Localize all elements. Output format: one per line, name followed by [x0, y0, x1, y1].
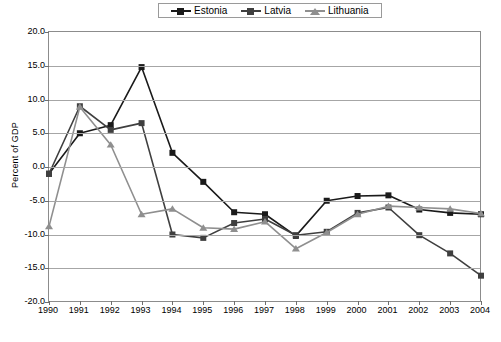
- series-line: [49, 106, 481, 275]
- square-marker-icon: [46, 171, 52, 177]
- square-marker-icon: [247, 8, 254, 15]
- y-tick-label: 5.0: [11, 128, 45, 137]
- square-marker-icon: [231, 209, 237, 215]
- y-tick-mark: [45, 167, 49, 168]
- square-marker-icon: [200, 235, 206, 241]
- gridline: [49, 201, 480, 202]
- x-tick-label: 1994: [154, 306, 188, 315]
- x-tick-label: 1993: [124, 306, 158, 315]
- series-line: [49, 107, 481, 249]
- y-tick-mark: [45, 32, 49, 33]
- square-marker-icon: [108, 127, 114, 133]
- legend-item-lithuania[interactable]: Lithuania: [305, 6, 369, 16]
- square-marker-icon: [177, 8, 184, 15]
- square-marker-icon: [231, 220, 237, 226]
- y-tick-label: 20.0: [11, 27, 45, 36]
- square-marker-icon: [447, 250, 453, 256]
- square-marker-icon: [200, 179, 206, 185]
- triangle-marker-icon: [168, 205, 176, 211]
- x-tick-label: 2000: [340, 306, 374, 315]
- triangle-marker-icon: [310, 8, 320, 15]
- y-tick-mark: [45, 66, 49, 67]
- y-tick-label: 15.0: [11, 61, 45, 70]
- gridline: [49, 268, 480, 269]
- legend-swatch-lithuania: [305, 6, 325, 16]
- chart-container: Estonia Latvia Lithuania Percent of GDP …: [0, 0, 501, 342]
- x-tick-label: 1990: [31, 306, 65, 315]
- y-tick-label: -10.0: [11, 230, 45, 239]
- square-marker-icon: [355, 193, 361, 199]
- y-tick-mark: [45, 268, 49, 269]
- legend-label-lithuania: Lithuania: [328, 6, 369, 16]
- x-tick-label: 2003: [432, 306, 466, 315]
- square-marker-icon: [139, 120, 145, 126]
- legend-item-latvia[interactable]: Latvia: [241, 6, 291, 16]
- triangle-marker-icon: [45, 223, 53, 229]
- x-tick-label: 1996: [216, 306, 250, 315]
- x-tick-label: 1998: [278, 306, 312, 315]
- y-tick-label: 10.0: [11, 95, 45, 104]
- gridline: [49, 133, 480, 134]
- y-tick-label: 0.0: [11, 162, 45, 171]
- gridline: [49, 66, 480, 67]
- x-tick-label: 2002: [401, 306, 435, 315]
- x-tick-label: 1992: [93, 306, 127, 315]
- y-tick-label: -5.0: [11, 196, 45, 205]
- y-tick-mark: [45, 201, 49, 202]
- square-marker-icon: [385, 192, 391, 198]
- y-tick-label: -15.0: [11, 263, 45, 272]
- gridline: [49, 100, 480, 101]
- legend-swatch-latvia: [241, 6, 261, 16]
- series-estonia: [46, 64, 484, 239]
- gridline: [49, 235, 480, 236]
- legend-item-estonia[interactable]: Estonia: [171, 6, 227, 16]
- plot-area: [48, 31, 481, 302]
- x-tick-label: 1997: [247, 306, 281, 315]
- x-tick-label: 2001: [370, 306, 404, 315]
- gridline: [49, 167, 480, 168]
- legend-label-latvia: Latvia: [264, 6, 291, 16]
- legend-label-estonia: Estonia: [194, 6, 227, 16]
- x-tick-label: 1995: [185, 306, 219, 315]
- legend-swatch-estonia: [171, 6, 191, 16]
- y-tick-mark: [45, 133, 49, 134]
- square-marker-icon: [169, 150, 175, 156]
- chart-legend: Estonia Latvia Lithuania: [158, 3, 382, 18]
- x-tick-label: 2004: [463, 306, 497, 315]
- x-tick-label: 1991: [62, 306, 96, 315]
- y-axis-ticks: 20.015.010.05.00.0-5.0-10.0-15.0-20.0: [0, 0, 45, 342]
- x-tick-label: 1999: [309, 306, 343, 315]
- y-tick-mark: [45, 235, 49, 236]
- y-tick-mark: [45, 100, 49, 101]
- series-latvia: [46, 103, 484, 278]
- square-marker-icon: [478, 273, 484, 279]
